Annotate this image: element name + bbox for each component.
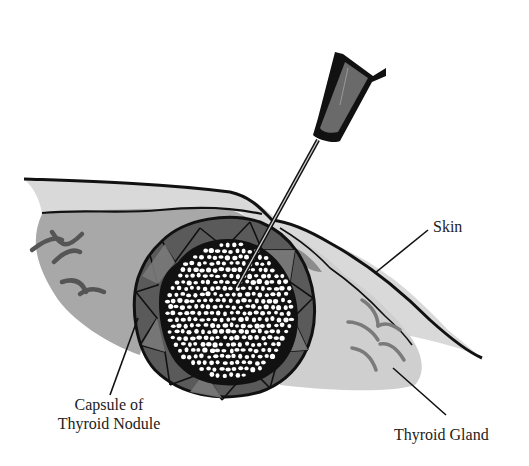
syringe-hub-icon xyxy=(313,52,386,142)
label-thyroid-gland: Thyroid Gland xyxy=(394,425,489,444)
skin-leader-line xyxy=(375,230,428,273)
label-capsule-of-thyroid-nodule: Capsule of Thyroid Nodule xyxy=(46,395,172,433)
label-skin: Skin xyxy=(433,217,462,236)
label-capsule-line2: Thyroid Nodule xyxy=(46,414,172,433)
nodule-core xyxy=(159,239,298,385)
label-capsule-line1: Capsule of xyxy=(46,395,172,414)
